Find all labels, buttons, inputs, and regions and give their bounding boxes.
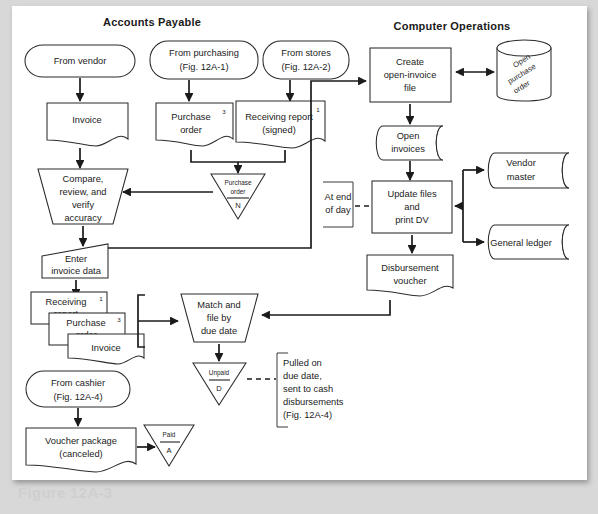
annotation-pulled-line2: due date, [283,371,322,381]
node-voucher-line2: (canceled) [59,449,102,459]
node-from-stores-line1: From stores [281,48,331,58]
node-po-file-line2: order [231,188,247,195]
annotation-pulled-line3: sent to cash [283,384,333,394]
node-create-line2: open-invoice [384,70,437,80]
node-create-line1: Create [396,57,424,67]
node-compare-line3: verify [72,200,95,210]
node-po-file-code: N [235,201,240,210]
connector-po-rr-junction [191,150,285,162]
node-match-line2: file by [207,313,232,323]
node-stack-rr-copies: 1 [99,295,103,302]
flowchart-svg: Accounts Payable Computer Operations Fro… [0,0,598,514]
node-paid-label: Paid [163,431,176,438]
node-enter-line1: Enter [65,254,87,264]
node-general-ledger-label: General ledger [490,238,552,248]
node-open-invoices-line1: Open [397,131,420,141]
node-compare-line1: Compare, [63,174,104,184]
node-compare-line4: accuracy [64,213,102,223]
node-compare-line2: review, and [59,187,106,197]
node-purchase-order-copies: 3 [222,108,226,115]
node-update-line1: Update files [387,189,436,199]
annotation-pulled-line1: Pulled on [283,358,322,368]
figure-stage: Figure 12A-3 Accounts Payable Computer O… [0,0,598,514]
annotation-at-end-line1: At end [325,192,352,202]
node-from-cashier-line1: From cashier [51,378,105,388]
annotation-pulled-line4: disbursements [283,397,344,407]
node-receiving-report-line2: (signed) [262,125,296,135]
node-from-purchasing-line1: From purchasing [169,48,239,58]
node-from-stores[interactable] [263,41,349,79]
node-invoice-label: Invoice [72,115,101,125]
node-stack-po-copies: 3 [117,316,121,323]
node-open-invoices-line2: invoices [391,144,425,154]
node-vendor-master-line1: Vendor [506,158,535,168]
node-update-line2: and [404,202,420,212]
node-match-line3: due date [201,326,237,336]
node-voucher-line1: Voucher package [45,436,117,446]
node-stack-rr-line1: Receiving [46,297,87,307]
header-accounts-payable: Accounts Payable [103,16,201,28]
connector-dv-to-match [262,300,390,315]
node-unpaid-label: Unpaid [209,369,230,377]
node-from-purchasing[interactable] [150,41,258,79]
node-dv-line1: Disbursement [381,263,439,273]
node-match-line1: Match and [197,300,240,310]
node-purchase-order-line2: order [180,125,202,135]
node-from-stores-line2: (Fig. 12A-2) [281,62,330,72]
node-stack-po-line1: Purchase [66,318,105,328]
node-from-purchasing-line2: (Fig. 12A-1) [179,62,228,72]
node-vendor-master-line2: master [507,172,535,182]
annotation-pulled-line5: (Fig. 12A-4) [283,410,332,420]
node-create-line3: file [404,83,416,93]
node-update-line3: print DV [395,215,429,225]
node-receiving-report-line1: Receiving report [245,112,313,122]
node-unpaid-code: D [216,384,222,393]
node-from-cashier-line2: (Fig. 12A-4) [53,392,102,402]
node-enter-line2: invoice data [51,266,101,276]
node-from-vendor-label: From vendor [54,56,107,66]
node-purchase-order-line1: Purchase [171,112,210,122]
annotation-at-end-line2: of day [325,205,351,215]
node-stack-invoice-label: Invoice [91,343,120,353]
header-computer-operations: Computer Operations [394,20,511,32]
node-dv-line2: voucher [393,276,426,286]
node-po-file-line1: Purchase [225,179,252,186]
node-receiving-report-copies: 1 [316,106,320,113]
